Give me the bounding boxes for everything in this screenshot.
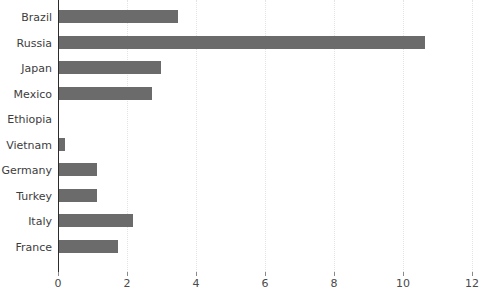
x-axis-tick-label: 10 [383, 277, 423, 290]
bar [59, 189, 97, 202]
gridline [472, 0, 473, 272]
x-axis-tick-label: 6 [245, 277, 285, 290]
bar [59, 61, 161, 74]
y-axis-category-label: Vietnam [0, 139, 52, 152]
x-axis-tick [127, 272, 128, 276]
y-axis-category-label: Turkey [0, 190, 52, 203]
bar [59, 163, 97, 176]
x-axis-tick [58, 272, 59, 276]
bar [59, 138, 65, 151]
y-axis-category-label: Mexico [0, 88, 52, 101]
plot-area: 024681012BrazilRussiaJapanMexicoEthiopia… [0, 0, 486, 297]
x-axis-tick-label: 0 [38, 277, 78, 290]
y-axis-category-label: France [0, 241, 52, 254]
y-axis-category-label: Ethiopia [0, 113, 52, 126]
y-axis-category-label: Italy [0, 215, 52, 228]
x-axis-tick [196, 272, 197, 276]
x-axis-tick-label: 2 [107, 277, 147, 290]
bar [59, 87, 152, 100]
bar [59, 214, 133, 227]
bar-chart: 024681012BrazilRussiaJapanMexicoEthiopia… [0, 0, 486, 297]
x-axis-tick [334, 272, 335, 276]
x-axis-tick [265, 272, 266, 276]
bar [59, 10, 178, 23]
x-axis-tick-label: 12 [452, 277, 486, 290]
y-axis-category-label: Brazil [0, 11, 52, 24]
x-axis-tick [472, 272, 473, 276]
y-axis-category-label: Japan [0, 62, 52, 75]
y-axis-category-label: Russia [0, 37, 52, 50]
x-axis-tick-label: 8 [314, 277, 354, 290]
y-axis-category-label: Germany [0, 164, 52, 177]
x-axis-tick [403, 272, 404, 276]
x-axis-tick-label: 4 [176, 277, 216, 290]
bar [59, 36, 425, 49]
bar [59, 240, 118, 253]
